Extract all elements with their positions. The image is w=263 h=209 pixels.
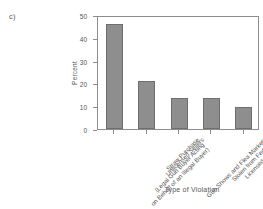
x-tick-mark [210, 130, 211, 134]
plot-area [97, 16, 259, 130]
y-tick-label: 30 [80, 58, 87, 65]
x-tick-mark [178, 130, 179, 134]
figure-panel-c: c) 01020304050 Percent Straw Purchase(Le… [0, 0, 263, 209]
bar [171, 98, 188, 129]
y-tick-label: 50 [80, 13, 87, 20]
y-axis-title: Percent [71, 61, 78, 85]
bar [106, 24, 123, 129]
x-tick-mark [243, 130, 244, 134]
bar [203, 98, 220, 129]
bar [138, 81, 155, 129]
y-tick-label: 40 [80, 35, 87, 42]
y-tick-label: 10 [80, 104, 87, 111]
x-tick-label-line: (Legal Gun Buyer Acting [145, 141, 206, 202]
y-axis: 01020304050 [0, 0, 97, 146]
x-tick-label: Straw Purchase(Legal Gun Buyer Actingon … [139, 136, 210, 207]
x-tick-mark [146, 130, 147, 134]
y-tick-mark [93, 130, 97, 131]
x-tick-mark [113, 130, 114, 134]
bar-series [98, 17, 258, 129]
x-axis-title: Type of Violation [164, 186, 219, 193]
y-tick-label: 0 [83, 127, 87, 134]
y-tick-label: 20 [80, 81, 87, 88]
bar [235, 107, 252, 129]
